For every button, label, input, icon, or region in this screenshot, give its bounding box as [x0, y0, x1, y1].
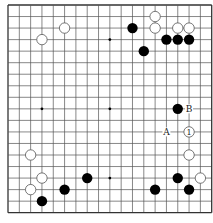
white-stone	[25, 150, 35, 160]
white-stone	[37, 34, 47, 44]
star-point	[41, 107, 44, 110]
white-stone	[195, 173, 205, 183]
black-stone	[139, 46, 149, 56]
point-label: A	[162, 127, 170, 137]
white-stone	[173, 23, 183, 33]
white-stone	[37, 173, 47, 183]
black-stone	[173, 173, 183, 183]
black-stone	[59, 184, 69, 194]
point-label: B	[186, 104, 193, 114]
white-stone	[184, 23, 194, 33]
star-point	[108, 177, 111, 180]
black-stone	[150, 184, 160, 194]
black-stone	[127, 23, 137, 33]
move-number: 1	[187, 128, 192, 137]
star-point	[108, 107, 111, 110]
black-stone	[173, 34, 183, 44]
go-board: 1 BA	[0, 0, 213, 223]
white-stone	[184, 150, 194, 160]
white-stone	[150, 23, 160, 33]
black-stone	[173, 104, 183, 114]
black-stone	[82, 173, 92, 183]
black-stone	[161, 34, 171, 44]
white-stone	[25, 184, 35, 194]
star-point	[108, 38, 111, 41]
white-stone: 1	[184, 127, 194, 137]
black-stone	[37, 196, 47, 206]
white-stone	[150, 11, 160, 21]
black-stone	[184, 184, 194, 194]
black-stone	[184, 34, 194, 44]
white-stone	[59, 23, 69, 33]
